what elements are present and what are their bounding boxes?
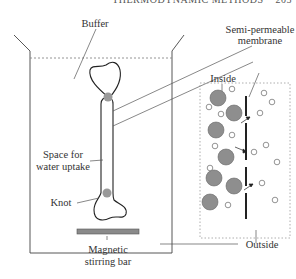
membrane-inset [200,83,290,238]
label-magnetic: Magnetic [88,244,128,255]
label-outside: Outside [246,239,279,250]
label-space-2: water uptake [36,161,90,172]
bottom-knot [103,189,112,198]
label-buffer: Buffer [81,18,109,29]
label-semi-permeable-2: membrane [238,35,283,46]
magnetic-stirring-bar [77,229,139,234]
beaker [14,35,184,253]
bottom-bag-end [94,193,126,220]
top-knot [104,93,113,102]
label-space-1: Space for [43,149,83,160]
label-inside: Inside [210,73,236,84]
label-knot: Knot [51,197,72,208]
top-bag-end [90,62,121,97]
dialysis-diagram: Buffer Semi-permeable membrane Inside Sp… [0,0,296,279]
label-semi-permeable-1: Semi-permeable [226,24,295,35]
label-stirring-bar: stirring bar [85,256,132,267]
